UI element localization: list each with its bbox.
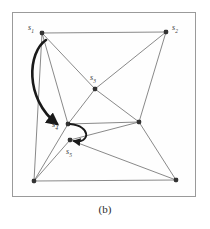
graph-diagram (0, 0, 210, 229)
graph-node-s1[interactable] (40, 31, 44, 35)
graph-edge-s3-r1 (95, 89, 139, 122)
node-label-s5: s5 (66, 148, 72, 158)
graph-edge-s4-b1 (34, 124, 68, 181)
graph-edge-s2-r1 (139, 32, 166, 122)
node-label-subscript-s3: 3 (93, 78, 96, 84)
figure-caption: (b) (0, 203, 210, 215)
node-label-s3: s3 (90, 74, 96, 84)
graph-node-s3[interactable] (93, 87, 97, 91)
graph-edge-r1-b2 (139, 122, 176, 180)
edge-layer (34, 32, 176, 181)
graph-edge-s5-r1 (70, 122, 139, 140)
graph-edge-s1-s2 (42, 32, 166, 33)
node-label-subscript-s5: 5 (69, 152, 72, 158)
node-label-subscript-s2: 2 (175, 28, 178, 34)
graph-node-s5[interactable] (68, 138, 72, 142)
node-label-s1: s1 (28, 24, 34, 34)
small-swap-arrow (70, 124, 86, 141)
node-label-s2: s2 (172, 24, 178, 34)
graph-edge-s5-b1 (34, 140, 70, 181)
graph-edge-s4-r1 (68, 122, 139, 124)
node-label-s4: s4 (52, 121, 58, 131)
graph-node-s2[interactable] (164, 30, 168, 34)
figure-page: s1s2s3s4s5 (b) (0, 0, 210, 229)
graph-edge-s2-s3 (95, 32, 166, 89)
graph-edge-s5-b2 (70, 140, 176, 180)
graph-edge-b1-b2 (34, 180, 176, 181)
arrow-layer (32, 40, 86, 141)
node-layer (32, 30, 178, 183)
node-label-subscript-s4: 4 (55, 125, 58, 131)
node-label-subscript-s1: 1 (31, 28, 34, 34)
graph-node-r1[interactable] (137, 120, 141, 124)
graph-node-b1[interactable] (32, 179, 36, 183)
large-move-arrow (32, 40, 57, 124)
graph-edge-s3-s4 (68, 89, 95, 124)
graph-node-b2[interactable] (174, 178, 178, 182)
